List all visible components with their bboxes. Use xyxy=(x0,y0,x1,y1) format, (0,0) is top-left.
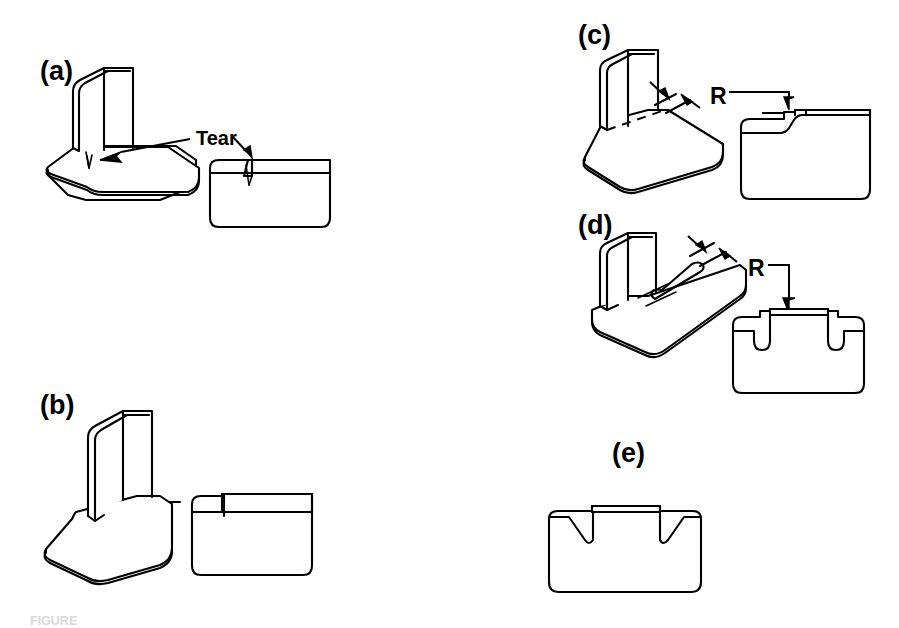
panel-e-flat-pattern xyxy=(549,506,701,592)
figure-caption: FIGURE xyxy=(30,614,77,628)
